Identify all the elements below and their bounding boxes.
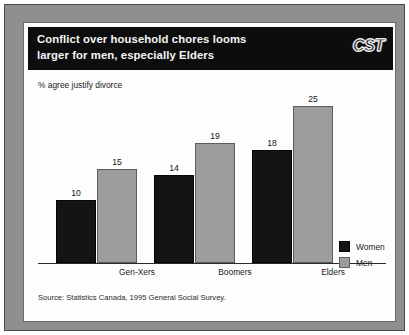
x-axis-baseline [38, 263, 386, 264]
bar-value-label: 19 [195, 131, 235, 141]
legend-item-men: Men [339, 257, 385, 268]
legend-label-women: Women [356, 242, 385, 252]
plot-area: 101514191825 [38, 93, 328, 263]
y-axis-caption: % agree justify divorce [38, 80, 122, 90]
figure-root: Conflict over household chores looms lar… [0, 0, 409, 335]
bar-group-item: 25 [293, 93, 333, 263]
chart-legend: WomenMen [339, 241, 385, 273]
category-label-boomers: Boomers [185, 267, 285, 277]
bar-value-label: 15 [97, 157, 137, 167]
cst-wordmark-logo: CST [353, 36, 384, 55]
page-title: Conflict over household chores looms lar… [37, 32, 327, 63]
bar-value-label: 10 [56, 188, 96, 198]
bar-boomers-men [195, 143, 235, 263]
legend-item-women: Women [339, 241, 385, 252]
legend-label-men: Men [356, 258, 372, 268]
chart-panel: Conflict over household chores looms lar… [23, 22, 396, 322]
bar-group-item: 18 [252, 93, 292, 263]
bar-group-item: 14 [154, 93, 194, 263]
bar-gen-xers-women [56, 200, 96, 263]
bar-elders-men [293, 106, 333, 263]
bar-gen-xers-men [97, 169, 137, 263]
bar-value-label: 14 [154, 163, 194, 173]
bar-value-label: 25 [293, 94, 333, 104]
legend-swatch-men [339, 257, 350, 268]
bar-boomers-women [154, 175, 194, 263]
outer-frame: Conflict over household chores looms lar… [4, 4, 405, 331]
source-note: Source: Statistics Canada, 1995 General … [38, 293, 226, 302]
chart-header-bar: Conflict over household chores looms lar… [28, 27, 393, 70]
bar-group-item: 15 [97, 93, 137, 263]
bar-group-item: 10 [56, 93, 96, 263]
legend-swatch-women [339, 241, 350, 252]
category-label-gen-xers: Gen-Xers [87, 267, 187, 277]
bar-value-label: 18 [252, 138, 292, 148]
bar-group-item: 19 [195, 93, 235, 263]
bar-elders-women [252, 150, 292, 263]
